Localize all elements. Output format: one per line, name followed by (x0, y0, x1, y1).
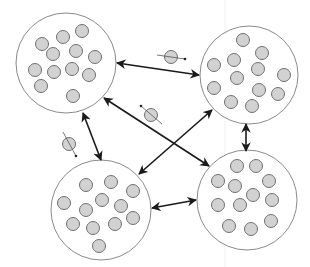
individual-ball (208, 82, 221, 95)
individual-ball (115, 200, 128, 213)
individual-ball (105, 176, 118, 189)
island-top-left (16, 13, 116, 113)
individual-ball (83, 69, 96, 82)
individual-ball (278, 69, 291, 82)
individual-ball (208, 59, 221, 72)
individual-ball (256, 47, 269, 60)
individual-ball (250, 160, 263, 173)
individual-ball (231, 72, 244, 85)
individual-ball (246, 100, 259, 113)
individual-ball (93, 240, 106, 253)
arrow-top-left-to-bottom-right (104, 98, 209, 166)
direction-dot-icon (184, 58, 187, 61)
individual-ball (70, 45, 83, 58)
individual-ball (225, 96, 238, 109)
individual-ball (237, 34, 250, 47)
individual-ball (228, 54, 241, 67)
migrant-ball (63, 138, 76, 151)
individual-ball (263, 175, 276, 188)
individual-ball (58, 197, 71, 210)
arrow-top-left-to-top-right (117, 63, 199, 75)
individual-ball (229, 180, 242, 193)
individual-ball (29, 64, 42, 77)
individual-ball (253, 84, 266, 97)
individual-ball (245, 223, 258, 236)
island-boundary (197, 150, 297, 250)
arrow-top-left-to-bottom-left (83, 113, 101, 160)
individual-ball (66, 63, 79, 76)
individual-ball (57, 31, 70, 44)
individual-ball (127, 185, 140, 198)
direction-dot-icon (140, 105, 143, 108)
island-top-right (200, 26, 298, 124)
individual-ball (109, 218, 122, 231)
individual-ball (76, 25, 89, 38)
individual-ball (266, 194, 279, 207)
individual-ball (80, 204, 93, 217)
individual-ball (47, 48, 60, 61)
individual-ball (89, 51, 102, 64)
individual-ball (67, 218, 80, 231)
individual-ball (234, 199, 247, 212)
individual-ball (127, 212, 140, 225)
island-boundary (16, 13, 116, 113)
individual-ball (223, 220, 236, 233)
individual-ball (247, 189, 260, 202)
migrant-top (157, 51, 186, 64)
migrant-left (63, 132, 78, 157)
island-bottom-left (51, 160, 151, 260)
arrow-bottom-left-to-bottom-right (152, 200, 196, 208)
individual-ball (80, 179, 93, 192)
individual-ball (252, 63, 265, 76)
direction-dot-icon (75, 155, 78, 158)
individual-ball (35, 80, 48, 93)
individual-ball (212, 175, 225, 188)
migration-diagram (0, 0, 310, 267)
islands (16, 13, 298, 260)
individual-ball (231, 160, 244, 173)
individual-ball (48, 66, 61, 79)
island-bottom-right (197, 150, 297, 250)
individual-ball (96, 194, 109, 207)
individual-ball (67, 90, 80, 103)
migrant-center (140, 105, 162, 124)
individual-ball (212, 199, 225, 212)
individual-ball (265, 215, 278, 228)
individual-ball (36, 38, 49, 51)
individual-ball (272, 88, 285, 101)
diagram-canvas (0, 0, 310, 267)
individual-ball (87, 222, 100, 235)
